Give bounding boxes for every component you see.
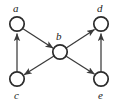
node-a[interactable] bbox=[10, 17, 24, 31]
node-e[interactable] bbox=[94, 72, 108, 86]
node-label-c: c bbox=[14, 90, 19, 101]
edge-b-to-d bbox=[66, 29, 94, 48]
node-label-e: e bbox=[98, 90, 103, 101]
edge-b-to-e bbox=[66, 56, 94, 74]
node-label-b: b bbox=[56, 31, 62, 42]
node-d[interactable] bbox=[94, 17, 108, 31]
directed-graph-figure: a b c d e bbox=[0, 0, 118, 106]
edge-a-to-b bbox=[23, 29, 53, 48]
node-c[interactable] bbox=[10, 72, 24, 86]
node-label-a: a bbox=[13, 3, 19, 14]
node-label-d: d bbox=[97, 3, 103, 14]
graph-nodes bbox=[10, 17, 108, 86]
edge-b-to-c bbox=[24, 56, 54, 75]
node-b[interactable] bbox=[53, 45, 67, 59]
